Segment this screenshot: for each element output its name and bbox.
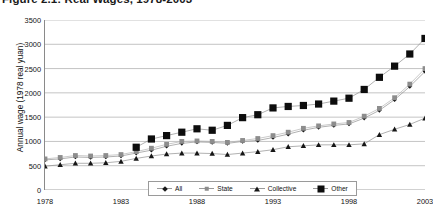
y-tick-label: 3500 [7,16,41,25]
x-tick-label: 1993 [265,197,281,206]
series-state [45,66,425,161]
legend-entry-state[interactable]: State [199,184,232,193]
series-collective [45,115,425,168]
legend-label: Other [331,185,348,192]
y-tick-label: 0 [7,186,41,195]
y-tick-label: 1000 [7,137,41,146]
y-tick-label: 1500 [7,113,41,122]
y-tick-label: 500 [7,161,41,170]
filled-square-icon [313,184,328,193]
y-tick-label: 2500 [7,64,41,73]
x-tick-label: 1998 [341,197,357,206]
x-tick-label: 1978 [37,197,53,206]
chart-title: Figure 2.1: Real Wages, 1978-2003 [2,0,192,5]
x-tick-label: 2003 [417,197,433,206]
series-all [45,69,425,162]
triangle-icon [250,184,265,193]
legend-label: All [175,185,182,192]
x-tick-label: 1983 [113,197,129,206]
y-tick-label: 2000 [7,88,41,97]
legend-entry-all[interactable]: All [157,184,182,193]
plot-canvas [45,20,425,190]
legend-entry-other[interactable]: Other [313,184,348,193]
legend-entry-collective[interactable]: Collective [250,184,297,193]
legend-label: State [217,185,232,192]
legend-label: Collective [268,185,297,192]
diamond-icon [157,184,172,193]
square-icon [199,184,214,193]
x-tick-label: 1988 [189,197,205,206]
y-tick-label: 3000 [7,40,41,49]
chart-legend: AllStateCollectiveOther [148,181,357,196]
plot-area: 3500300025002000150010005000 19781983198… [44,20,424,190]
